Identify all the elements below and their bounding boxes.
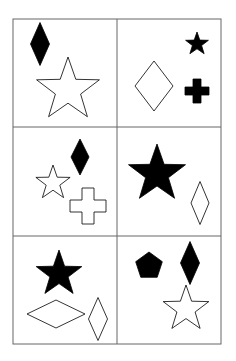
outline-diamond-shape	[27, 300, 85, 328]
filled-star-shape	[36, 250, 82, 293]
filled-diamond-shape	[71, 139, 89, 175]
outline-diamond-shape	[135, 61, 173, 111]
outline-diamond-shape	[89, 298, 108, 341]
shape-grid-diagram	[0, 0, 236, 361]
outline-star-shape	[163, 285, 209, 328]
outline-star-shape	[36, 165, 70, 198]
filled-diamond-shape	[31, 23, 50, 66]
filled-cross-shape	[185, 79, 209, 103]
filled-star-shape	[186, 32, 209, 54]
outline-star-shape	[37, 57, 100, 117]
filled-pentagon-shape	[136, 252, 163, 277]
outline-diamond-shape	[191, 182, 209, 225]
filled-diamond-shape	[181, 242, 200, 285]
filled-star-shape	[129, 144, 186, 198]
outline-cross-shape	[70, 188, 106, 224]
